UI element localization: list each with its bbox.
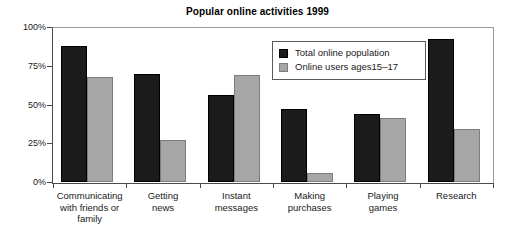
bar-online-users-ages-15-17 [234,75,260,182]
x-tick-label: Communicatingwith friends orfamily [53,190,126,225]
x-tick-mark [346,183,347,188]
x-tick-label: Gettingnews [126,190,199,213]
y-tick-label: 25% [0,139,46,148]
x-tick-label: Instantmessages [200,190,273,213]
x-tick-mark [273,183,274,188]
x-tick-label-line: Making [273,190,346,202]
legend-swatch-light [279,63,288,72]
legend-swatch-dark [279,49,288,58]
x-tick-label: Playinggames [346,190,419,213]
x-tick-label-line: games [346,202,419,214]
x-tick-label-line: purchases [273,202,346,214]
x-tick-mark [420,183,421,188]
bar-group [420,27,493,182]
legend-item-online-users-ages-15-17: Online users ages15–17 [279,60,419,74]
bar-group [200,27,273,182]
bar-group [126,27,199,182]
x-tick-label-line: Research [420,190,493,202]
y-tick-mark [47,27,52,28]
bar-online-users-ages-15-17 [160,140,186,182]
bar-online-users-ages-15-17 [307,173,333,182]
bar-total-online-population [61,46,87,182]
bar-online-users-ages-15-17 [454,129,480,182]
y-tick-label: 100% [0,23,46,32]
x-tick-label: Makingpurchases [273,190,346,213]
x-tick-label-line: news [126,202,199,214]
y-axis: 0%25%50%75%100% [0,27,46,182]
chart-legend: Total online population Online users age… [272,41,426,80]
x-tick-label-line: messages [200,202,273,214]
bar-total-online-population [208,95,234,182]
x-axis: Communicatingwith friends orfamilyGettin… [53,190,493,240]
x-tick-label-line: family [53,213,126,225]
bar-online-users-ages-15-17 [380,118,406,182]
bar-total-online-population [354,114,380,182]
bar-group [53,27,126,182]
chart-title: Popular online activities 1999 [0,6,515,17]
y-tick-label: 50% [0,100,46,109]
y-tick-mark [47,66,52,67]
legend-item-total-online-population: Total online population [279,46,419,60]
bar-total-online-population [428,39,454,182]
y-tick-mark [47,143,52,144]
bar-total-online-population [281,109,307,182]
y-tick-mark [47,182,52,183]
x-tick-label-line: Instant [200,190,273,202]
x-tick-label-line: Playing [346,190,419,202]
y-tick-label: 75% [0,61,46,70]
y-tick-mark [47,105,52,106]
x-tick-mark [493,183,494,188]
x-tick-label-line: Getting [126,190,199,202]
legend-label-online-users-ages-15-17: Online users ages15–17 [295,62,398,72]
x-tick-mark [126,183,127,188]
legend-label-total-online-population: Total online population [295,48,390,58]
bar-total-online-population [134,74,160,183]
x-tick-label-line: with friends or [53,202,126,214]
x-tick-label-line: Communicating [53,190,126,202]
x-tick-mark [200,183,201,188]
x-tick-mark [53,183,54,188]
bar-chart: Popular online activities 1999 0%25%50%7… [0,0,515,248]
y-tick-label: 0% [0,178,46,187]
x-tick-label: Research [420,190,493,202]
bar-online-users-ages-15-17 [87,77,113,182]
